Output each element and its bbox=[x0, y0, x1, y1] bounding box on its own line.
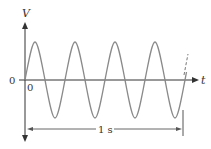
x-axis-label: t bbox=[201, 74, 206, 87]
dimension-left-arrow-icon bbox=[27, 127, 33, 131]
origin-label-left: 0 bbox=[9, 75, 15, 86]
y-axis-up-arrow-icon bbox=[22, 22, 28, 29]
y-axis-label: V bbox=[22, 7, 31, 20]
y-axis-down-arrow-icon bbox=[22, 135, 28, 142]
dimension-right-arrow-icon bbox=[176, 127, 182, 131]
origin-label-below: 0 bbox=[27, 82, 33, 93]
end-dashed-line bbox=[184, 54, 188, 75]
voltage-time-diagram: V t 0 0 1 s bbox=[0, 0, 211, 149]
x-axis-arrow-icon bbox=[192, 77, 199, 83]
duration-label: 1 s bbox=[98, 124, 113, 135]
